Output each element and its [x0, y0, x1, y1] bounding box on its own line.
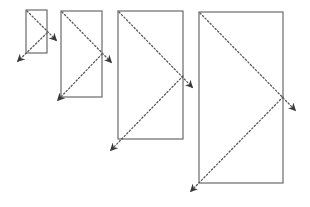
arrow-right-down-icon — [27, 11, 56, 40]
arrow-right-down-icon — [119, 12, 192, 87]
rect-2-group — [58, 11, 111, 100]
arrow-right-down-icon — [200, 13, 295, 110]
arrow-right-down-icon — [62, 12, 111, 62]
rect-1-box — [26, 10, 47, 53]
rect-2-box — [61, 11, 102, 97]
rect-1-group — [18, 10, 56, 61]
diagram-canvas — [0, 0, 310, 207]
arrow-left-down-icon — [58, 54, 102, 100]
arrow-left-down-icon — [18, 33, 47, 61]
rect-4-group — [191, 12, 295, 191]
arrow-left-down-icon — [191, 97, 283, 191]
rect-4-box — [199, 12, 283, 183]
diagram-svg — [0, 0, 310, 207]
rect-3-group — [111, 11, 192, 150]
rect-3-box — [118, 11, 183, 139]
